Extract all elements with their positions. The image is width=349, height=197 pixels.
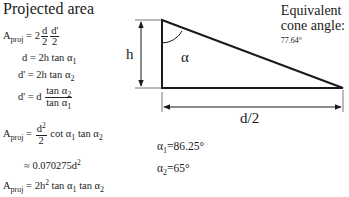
equivalent-cone-angle: Equivalent cone angle: 77.64°	[281, 3, 345, 48]
cone-title-line2: cone angle:	[281, 18, 345, 33]
equation-aproj-2: Aproj = d22 cot α1 tan α2	[3, 124, 103, 146]
equation-approx: ≈ 0.070275d2	[24, 160, 81, 171]
angle-arc	[162, 31, 182, 43]
cone-title-line1: Equivalent	[281, 3, 345, 18]
base-label: d/2	[240, 110, 259, 127]
height-label: h	[126, 46, 134, 63]
section-title: Projected area	[3, 0, 94, 18]
equation-d-prime: d' = 2h tan α2	[18, 69, 74, 80]
equation-aproj-1: Aproj = 2d2d'2	[3, 26, 60, 47]
equation-aproj-3: Aproj = 2h2 tan α1 tan α2	[3, 180, 104, 191]
angle-label: α	[181, 49, 189, 66]
alpha2-value: α2=65°	[157, 162, 190, 174]
equation-d: d = 2h tan α1	[22, 52, 77, 63]
alpha1-value: α1=86.25°	[157, 140, 204, 152]
equation-d-prime-ratio: d' = d tan α2tan α1	[18, 86, 73, 109]
cone-angle-value: 77.64°	[281, 33, 345, 48]
